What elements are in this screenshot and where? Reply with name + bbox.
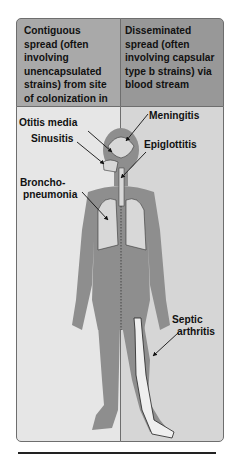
lung-left xyxy=(98,199,118,250)
left-leg-shape xyxy=(92,325,120,430)
label-sinusitis: Sinusitis xyxy=(31,133,73,145)
label-septic-2: arthritis xyxy=(177,326,215,338)
label-otitis-media: Otitis media xyxy=(19,117,77,129)
label-septic-1: Septic xyxy=(172,314,203,326)
bottom-rule xyxy=(18,452,216,454)
label-meningitis: Meningitis xyxy=(149,110,199,122)
human-body-figure xyxy=(0,0,234,456)
label-bronchopneumonia-1: Broncho- xyxy=(20,177,65,189)
label-bronchopneumonia-2: pneumonia xyxy=(23,189,77,201)
label-epiglottitis: Epiglottitis xyxy=(144,139,197,151)
leg-bone xyxy=(134,318,174,438)
